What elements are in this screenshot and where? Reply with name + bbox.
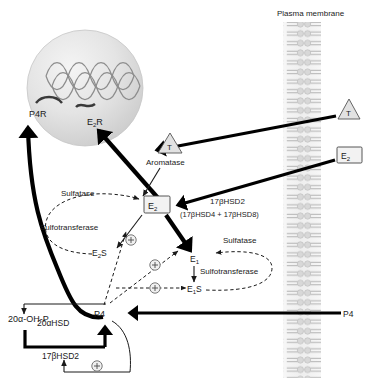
svg-text:E1S: E1S bbox=[187, 284, 202, 295]
progesterone-node: P4 bbox=[94, 309, 105, 319]
sulfatase-right-label: Sulfatase bbox=[223, 236, 257, 245]
aromatase-node: T bbox=[158, 133, 182, 153]
svg-text:T: T bbox=[346, 109, 351, 118]
line-20a-OH-P-return bbox=[25, 330, 105, 347]
aromatase-label: Aromatase bbox=[146, 158, 185, 167]
estrone-sulfate-node: E1S bbox=[187, 284, 202, 295]
arrow-e2-to-e1 bbox=[166, 215, 190, 250]
estrone-node: E1 bbox=[190, 254, 200, 265]
diagram-canvas: Plasma membrane P4R E2R bbox=[0, 0, 375, 391]
plus-badge-4 bbox=[92, 361, 102, 371]
pathway-diagram-figure: Plasma membrane P4R E2R bbox=[0, 0, 375, 391]
plus-badge-3 bbox=[150, 283, 160, 293]
hsd17b2-bottom-label: 17βHSD2 bbox=[42, 351, 79, 361]
svg-text:T: T bbox=[167, 143, 172, 152]
hsd17b2-main-label: 17βHSD2 bbox=[210, 197, 245, 206]
progesterone-extracellular-label: P4 bbox=[343, 309, 354, 319]
nucleus bbox=[27, 30, 143, 146]
sulfatase-left-label: Sulfatase bbox=[61, 189, 95, 198]
arrow-p4-stimulates-e1 bbox=[110, 251, 178, 303]
svg-text:E1: E1 bbox=[190, 254, 200, 265]
hsd20a-label: 20αHSD bbox=[37, 318, 69, 328]
estradiol-node: E2 bbox=[144, 196, 170, 213]
plasma-membrane bbox=[283, 22, 321, 378]
estradiol-sulfate-node: E2S bbox=[92, 248, 107, 259]
sulfotransferase-right-label: Sulfotransferase bbox=[200, 267, 259, 276]
testosterone-extracellular-node: T bbox=[338, 99, 360, 119]
hsd17b2-detail-label: (17βHSD4 + 17βHSD8) bbox=[180, 210, 259, 219]
sulfotransferase-left-label: Sulfotransferase bbox=[40, 223, 99, 232]
arrow-p4-stimulates-e2 bbox=[104, 232, 126, 305]
estradiol-extracellular-node: E2 bbox=[337, 147, 362, 163]
plasma-membrane-label: Plasma membrane bbox=[277, 9, 345, 18]
plus-badge-1 bbox=[126, 235, 136, 245]
p4r-label: P4R bbox=[29, 109, 47, 119]
plus-badge-2 bbox=[150, 260, 160, 270]
svg-text:E2S: E2S bbox=[92, 248, 107, 259]
